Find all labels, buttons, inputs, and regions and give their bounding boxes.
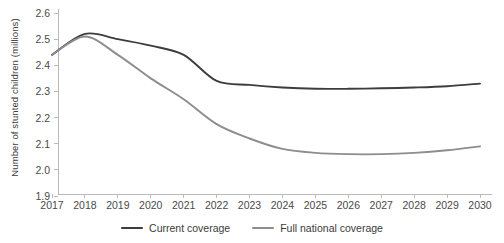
series-line xyxy=(52,37,480,155)
x-tick-label: 2022 xyxy=(205,199,229,211)
y-tick-label: 2.1 xyxy=(35,138,50,150)
y-tick-label: 2.3 xyxy=(35,85,50,97)
y-tick-label: 2.5 xyxy=(35,33,50,45)
y-tick-label: 2.0 xyxy=(35,164,50,176)
legend-color-swatch xyxy=(252,227,274,229)
chart-canvas: 1.92.02.12.22.32.42.52.6 201720182019202… xyxy=(0,0,504,243)
legend-item[interactable]: Full national coverage xyxy=(252,222,383,234)
x-tick-label: 2020 xyxy=(139,199,163,211)
series-lines xyxy=(52,33,480,154)
x-tick-label: 2017 xyxy=(40,199,64,211)
chart-legend: Current coverageFull national coverage xyxy=(0,222,504,234)
x-tick-label: 2021 xyxy=(172,199,196,211)
legend-label: Full national coverage xyxy=(280,222,383,234)
x-tick-label: 2029 xyxy=(435,199,459,211)
y-axis-ticks: 1.92.02.12.22.32.42.52.6 xyxy=(35,7,58,202)
legend-item[interactable]: Current coverage xyxy=(121,222,230,234)
x-tick-label: 2030 xyxy=(468,199,492,211)
legend-color-swatch xyxy=(121,227,143,229)
x-axis-ticks: 2017201820192020202120222023202420252026… xyxy=(40,194,492,211)
y-tick-label: 2.2 xyxy=(35,112,50,124)
x-tick-label: 2025 xyxy=(304,199,328,211)
x-tick-label: 2026 xyxy=(337,199,361,211)
x-tick-label: 2028 xyxy=(402,199,426,211)
x-tick-label: 2027 xyxy=(370,199,394,211)
series-line xyxy=(52,33,480,89)
x-tick-label: 2019 xyxy=(106,199,130,211)
x-tick-label: 2023 xyxy=(238,199,262,211)
y-tick-label: 2.4 xyxy=(35,59,50,71)
legend-label: Current coverage xyxy=(149,222,230,234)
x-tick-label: 2024 xyxy=(271,199,295,211)
x-tick-label: 2018 xyxy=(73,199,97,211)
stunted-children-line-chart: Number of stunted children (millions) 1.… xyxy=(0,0,504,243)
y-tick-label: 2.6 xyxy=(35,7,50,19)
